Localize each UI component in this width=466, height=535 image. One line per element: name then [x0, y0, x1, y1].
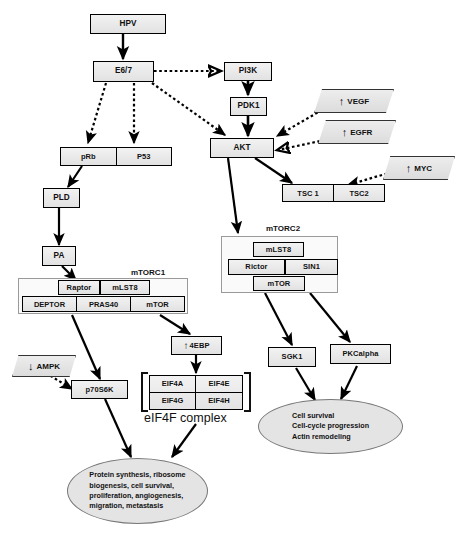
regulator-ampk[interactable]: ↓ AMPK: [12, 355, 76, 377]
edge-eif4f-outcome: [172, 424, 196, 457]
edge-sgk1-outcome: [296, 368, 315, 400]
node-pras40[interactable]: PRAS40: [76, 297, 130, 311]
node-mlst8-c1[interactable]: mLST8: [100, 280, 150, 295]
mtorc2-label: mTORC2: [266, 224, 300, 233]
arrow-up-icon: ↑: [339, 96, 345, 107]
node-eif4e[interactable]: EIF4E: [196, 376, 242, 393]
node-p70s6k[interactable]: p70S6K: [71, 380, 128, 399]
edge-mtorc1-4ebp: [160, 315, 190, 334]
node-sin1[interactable]: SIN1: [285, 259, 338, 275]
edge-mtorc2-pkcalpha: [310, 293, 350, 342]
node-pi3k[interactable]: PI3K: [224, 62, 272, 81]
regulator-egfr-label: EGFR: [350, 128, 372, 137]
node-prb-p53[interactable]: pRb P53: [60, 147, 172, 166]
node-pdk1[interactable]: PDK1: [230, 97, 267, 116]
edge-mtorc1-p70s6k: [72, 315, 100, 379]
mtorc1-label: mTORC1: [131, 268, 165, 277]
node-tsc1[interactable]: TSC 1: [283, 185, 333, 201]
node-eif4g[interactable]: EIF4G: [150, 393, 196, 410]
outcome-right-line-2: Cell-cycle progression: [292, 421, 369, 431]
node-rictor[interactable]: Rictor: [228, 259, 285, 275]
node-tsc-complex[interactable]: TSC 1 TSC2: [282, 184, 385, 202]
outcome-right: Cell survival Cell-cycle progression Act…: [258, 399, 403, 454]
outcome-left-line-3: proliferation, angiogenesis,: [89, 491, 185, 501]
arrow-down-icon: ↓: [28, 361, 34, 372]
node-p53[interactable]: P53: [116, 148, 172, 165]
edge-e67-akt: [152, 83, 225, 135]
regulator-myc-label: MYC: [414, 164, 432, 173]
node-mtor-c1[interactable]: mTOR: [130, 297, 184, 311]
bracket-left-icon: [141, 372, 148, 412]
edge-prb-pld: [68, 166, 82, 187]
node-tsc2[interactable]: TSC2: [333, 185, 384, 201]
node-raptor[interactable]: Raptor: [58, 280, 100, 295]
eif4f-caption: eIF4F complex: [144, 411, 227, 425]
mtorc1-bottom-row[interactable]: DEPTOR PRAS40 mTOR: [22, 296, 185, 312]
node-mlst8-c2[interactable]: mLST8: [253, 242, 304, 257]
edge-akt-tsc1: [255, 158, 292, 183]
outcome-left-line-2: biogenesis, cell survival,: [89, 481, 185, 491]
edge-pkcalpha-outcome: [341, 366, 357, 399]
node-e67[interactable]: E6/7: [93, 61, 154, 82]
regulator-myc[interactable]: ↑ MYC: [383, 156, 455, 180]
node-deptor[interactable]: DEPTOR: [23, 297, 76, 311]
outcome-left: Protein synthesis, ribosome biogenesis, …: [67, 458, 208, 524]
edge-mtorc2-sgk1: [265, 293, 292, 345]
edge-p70s6k-outcome: [105, 399, 131, 457]
node-eif4a[interactable]: EIF4A: [150, 376, 196, 393]
outcome-right-line-3: Actin remodeling: [292, 432, 369, 442]
node-akt[interactable]: AKT: [210, 138, 274, 158]
node-pa[interactable]: PA: [42, 246, 76, 266]
regulator-egfr[interactable]: ↑ EGFR: [318, 120, 396, 144]
node-eif4h[interactable]: EIF4H: [196, 393, 242, 410]
arrow-up-icon: ↑: [183, 341, 188, 351]
node-pld[interactable]: PLD: [43, 188, 80, 208]
regulator-vegf[interactable]: ↑ VEGF: [314, 89, 394, 113]
outcome-right-line-1: Cell survival: [292, 411, 369, 421]
edge-egfr-akt: [278, 140, 325, 150]
outcome-left-text: Protein synthesis, ribosome biogenesis, …: [77, 470, 197, 512]
arrow-up-icon: ↑: [406, 163, 412, 174]
edge-akt-mtorc2: [228, 158, 238, 233]
outcome-right-text: Cell survival Cell-cycle progression Act…: [280, 411, 381, 442]
node-hpv[interactable]: HPV: [90, 14, 166, 34]
regulator-vegf-label: VEGF: [347, 97, 369, 106]
edge-e67-prb: [88, 83, 106, 143]
node-sgk1[interactable]: SGK1: [268, 347, 316, 367]
node-mtor-c2[interactable]: mTOR: [253, 276, 305, 291]
edge-vegf-akt: [277, 110, 322, 136]
pathway-diagram: HPV E6/7 PI3K PDK1 AKT pRb P53 PLD PA TS…: [0, 0, 466, 535]
arrow-up-icon: ↑: [342, 127, 348, 138]
node-4ebp[interactable]: ↑4EBP: [171, 336, 222, 355]
outcome-left-line-4: migration, metastasis: [89, 501, 185, 511]
node-4ebp-label: 4EBP: [190, 342, 210, 350]
outcome-left-line-1: Protein synthesis, ribosome: [89, 470, 185, 480]
eif4f-grid[interactable]: EIF4A EIF4E EIF4G EIF4H: [149, 375, 243, 410]
regulator-ampk-label: AMPK: [36, 362, 60, 371]
node-prb[interactable]: pRb: [61, 148, 116, 165]
node-pkcalpha[interactable]: PKCalpha: [330, 344, 391, 364]
bracket-right-icon: [244, 372, 251, 412]
